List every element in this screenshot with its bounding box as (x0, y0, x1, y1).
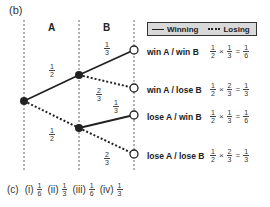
node-lose-a (75, 124, 83, 132)
end-node-win-win (130, 46, 138, 54)
prob-lose-b-after-win: 23 (96, 87, 102, 102)
end-node-win-lose (130, 84, 138, 92)
root-node (20, 97, 28, 105)
dotted-line-icon (208, 28, 220, 30)
part-c-answers: (c) (i) 16 (ii) 13 (iii) 16 (iv) 13 (7, 182, 128, 197)
outcome-row: win A / lose B 12 × 23 = 13 (147, 82, 249, 97)
prob-win-b-after-lose: 13 (113, 99, 119, 114)
prob-win-a: 12 (49, 63, 55, 78)
prob-lose-a: 12 (49, 127, 55, 142)
branch-win-b-after-lose (79, 115, 134, 128)
prob-win-b-after-win: 13 (104, 41, 110, 56)
answer-iv: (iv) 13 (100, 182, 123, 197)
prob-lose-b-after-lose: 23 (104, 151, 110, 166)
answer-ii: (ii) 13 (47, 182, 67, 197)
node-win-a (75, 71, 83, 79)
part-c-label: (c) (7, 184, 19, 195)
solid-line-icon (152, 29, 164, 30)
outcome-row: lose A / win B 12 × 13 = 16 (147, 109, 249, 124)
legend-winning: Winning (152, 25, 198, 34)
outcome-row: lose A / lose B 12 × 23 = 13 (147, 148, 249, 163)
legend-losing: Losing (208, 25, 249, 34)
branch-win-a (24, 75, 79, 101)
answer-iii: (iii) 16 (72, 182, 94, 197)
branch-lose-b-after-win (79, 75, 134, 88)
branch-lose-a (24, 101, 79, 128)
end-node-lose-lose (130, 150, 138, 158)
answer-i: (i) 16 (25, 182, 43, 197)
outcome-row: win A / win B 12 × 13 = 16 (147, 44, 249, 59)
legend: Winning Losing (147, 22, 257, 36)
end-node-lose-win (130, 111, 138, 119)
